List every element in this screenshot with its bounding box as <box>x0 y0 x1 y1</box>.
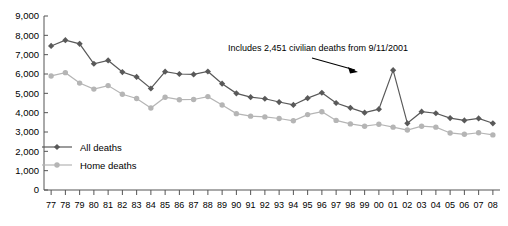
data-point <box>205 94 210 99</box>
data-point <box>248 113 253 118</box>
data-point <box>347 105 353 111</box>
data-point <box>305 95 311 101</box>
x-axis-tick-label: 06 <box>459 200 469 210</box>
x-axis-tick-label: 04 <box>431 200 441 210</box>
data-point <box>390 124 395 129</box>
data-point <box>77 80 82 85</box>
x-axis-tick-label: 81 <box>103 200 113 210</box>
x-axis-tick-label: 99 <box>360 200 370 210</box>
data-point <box>462 132 467 137</box>
x-axis-tick-labels: 7778798081828384858687888990919293949596… <box>46 200 498 210</box>
data-point <box>291 118 296 123</box>
data-point <box>476 115 482 121</box>
data-point <box>362 110 368 116</box>
chart-container: 01,0002,0003,0004,0005,0006,0007,0008,00… <box>0 0 508 226</box>
data-point <box>276 116 281 121</box>
annotation-label: Includes 2,451 civilian deaths from 9/11… <box>228 43 408 53</box>
data-point <box>490 132 495 137</box>
x-axis-tick-label: 86 <box>174 200 184 210</box>
data-point <box>191 97 196 102</box>
data-point <box>177 97 182 102</box>
data-point <box>333 118 338 123</box>
series-home-deaths <box>48 70 495 138</box>
data-point <box>390 67 396 73</box>
line-chart: 01,0002,0003,0004,0005,0006,0007,0008,00… <box>0 0 508 226</box>
legend-marker-shape <box>54 144 60 150</box>
x-axis-tick-label: 79 <box>75 200 85 210</box>
y-axis-tick-label: 8,000 <box>15 30 39 41</box>
legend-marker-shape <box>54 162 59 167</box>
annotation-arrow-head <box>348 67 358 74</box>
data-point <box>120 92 125 97</box>
legend-label-home-deaths: Home deaths <box>80 160 137 171</box>
x-axis-tick-label: 88 <box>203 200 213 210</box>
x-axis-tick-marks <box>51 190 493 195</box>
data-point <box>433 124 438 129</box>
data-point <box>405 127 410 132</box>
x-axis-tick-label: 82 <box>117 200 127 210</box>
y-axis-tick-label: 4,000 <box>15 107 39 118</box>
x-axis-tick-label: 94 <box>288 200 298 210</box>
legend-marker-all-deaths <box>54 144 60 150</box>
x-axis-tick-label: 00 <box>374 200 384 210</box>
series-line <box>51 73 493 135</box>
x-axis-tick-label: 01 <box>388 200 398 210</box>
data-point <box>290 102 296 108</box>
data-point <box>176 71 182 77</box>
legend-marker-home-deaths <box>54 162 59 167</box>
data-point <box>62 37 68 43</box>
x-axis-tick-label: 03 <box>417 200 427 210</box>
data-point <box>447 130 452 135</box>
y-axis-tick-label: 3,000 <box>15 126 39 137</box>
y-axis-tick-marks <box>44 16 48 190</box>
y-axis-tick-label: 1,000 <box>15 165 39 176</box>
data-point <box>105 83 110 88</box>
x-axis-tick-label: 07 <box>474 200 484 210</box>
x-axis-tick-label: 85 <box>160 200 170 210</box>
x-axis-tick-label: 93 <box>274 200 284 210</box>
x-axis-tick-label: 90 <box>231 200 241 210</box>
data-point <box>162 95 167 100</box>
x-axis-tick-label: 98 <box>345 200 355 210</box>
data-point <box>376 106 382 112</box>
x-axis-tick-label: 83 <box>132 200 142 210</box>
data-point <box>362 124 367 129</box>
annotation-group: Includes 2,451 civilian deaths from 9/11… <box>228 43 408 74</box>
y-axis-tick-label: 7,000 <box>15 49 39 60</box>
y-axis-tick-label: 9,000 <box>15 10 39 21</box>
data-point <box>148 105 153 110</box>
x-axis-tick-label: 97 <box>331 200 341 210</box>
x-axis-tick-label: 08 <box>488 200 498 210</box>
x-axis-tick-label: 96 <box>317 200 327 210</box>
data-point <box>376 122 381 127</box>
data-point <box>63 70 68 75</box>
x-axis-tick-label: 95 <box>303 200 313 210</box>
data-point <box>305 112 310 117</box>
data-point <box>134 96 139 101</box>
data-point <box>234 111 239 116</box>
x-axis-tick-label: 89 <box>217 200 227 210</box>
y-axis-tick-label: 5,000 <box>15 88 39 99</box>
data-point <box>262 96 268 102</box>
y-axis-tick-labels: 01,0002,0003,0004,0005,0006,0007,0008,00… <box>15 10 39 195</box>
x-axis-tick-label: 91 <box>246 200 256 210</box>
y-axis-tick-label: 0 <box>34 184 39 195</box>
data-point <box>490 120 496 126</box>
data-point <box>319 109 324 114</box>
x-axis-tick-label: 87 <box>189 200 199 210</box>
data-point <box>91 86 96 91</box>
data-point <box>348 121 353 126</box>
y-axis-tick-label: 6,000 <box>15 68 39 79</box>
x-axis-tick-label: 77 <box>46 200 56 210</box>
data-point <box>48 73 53 78</box>
x-axis-tick-label: 84 <box>146 200 156 210</box>
data-point <box>476 130 481 135</box>
legend-label-all-deaths: All deaths <box>80 142 122 153</box>
x-axis-tick-label: 02 <box>402 200 412 210</box>
data-point <box>433 110 439 116</box>
data-point <box>48 43 54 49</box>
data-point <box>248 94 254 100</box>
data-point <box>219 102 224 107</box>
data-point <box>419 124 424 129</box>
data-point <box>447 115 453 121</box>
